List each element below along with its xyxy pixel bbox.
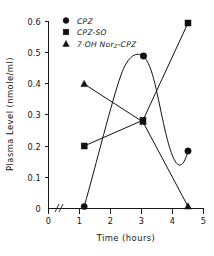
legend-label-tail: -CPZ <box>118 40 137 49</box>
series-7-oh-nor2-cpz-line <box>84 84 188 207</box>
legend-label-main: 7·OH Nor <box>77 40 114 49</box>
x-tick-label-3: 3 <box>139 216 144 226</box>
chart-container: 0.6 0.5 0.4 0.3 0.2 0.1 0 0 1 2 3 4 5 Ti… <box>0 0 214 256</box>
series-cpz-line <box>84 54 188 206</box>
legend-item-cpz[interactable]: CPZ <box>63 17 93 26</box>
legend-label-7-oh-nor2-cpz: 7·OH Nor2-CPZ <box>77 40 137 50</box>
y-tick-labels-group: 0.6 0.5 0.4 0.3 0.2 0.1 0 <box>27 17 41 214</box>
y-ticks-group <box>45 22 49 178</box>
axes-group <box>49 21 204 213</box>
plasma-level-line-chart: 0.6 0.5 0.4 0.3 0.2 0.1 0 0 1 2 3 4 5 Ti… <box>0 0 214 256</box>
x-tick-label-1: 1 <box>77 216 82 226</box>
legend-item-7-oh-nor2-cpz[interactable]: 7·OH Nor2-CPZ <box>63 40 137 50</box>
y-axis-title: Plasma Level (nmole/ml) <box>5 57 15 171</box>
legend-label-cpz-so: CPZ-SO <box>77 28 107 37</box>
triangle-marker <box>185 203 192 209</box>
triangle-marker <box>81 80 88 86</box>
x-tick-label-4: 4 <box>170 216 175 226</box>
series-cpz <box>81 53 191 210</box>
y-tick-label-5: 0.1 <box>27 173 41 183</box>
x-tick-label-2: 2 <box>108 216 113 226</box>
x-axis-title: Time (hours) <box>96 233 156 243</box>
circle-marker <box>63 18 69 24</box>
y-tick-label-6: 0 <box>36 204 41 214</box>
y-tick-label-1: 0.5 <box>27 48 41 58</box>
square-marker <box>185 20 191 26</box>
y-tick-label-0: 0.6 <box>27 17 41 27</box>
circle-marker <box>81 203 87 209</box>
x-tick-label-0: 0 <box>46 216 51 226</box>
circle-marker <box>140 53 147 60</box>
square-marker <box>63 29 69 35</box>
x-tick-label-5: 5 <box>201 216 206 226</box>
series-7-oh-nor2-cpz <box>81 80 192 209</box>
y-tick-label-3: 0.3 <box>27 110 41 120</box>
x-tick-labels-group: 0 1 2 3 4 5 <box>46 216 206 226</box>
y-tick-label-2: 0.4 <box>27 79 41 89</box>
circle-marker <box>185 148 191 154</box>
y-tick-label-4: 0.2 <box>27 142 41 152</box>
legend-label-cpz: CPZ <box>77 17 93 26</box>
triangle-marker <box>63 40 69 46</box>
square-marker <box>81 143 87 149</box>
legend: CPZ CPZ-SO 7·OH Nor2-CPZ <box>63 17 137 50</box>
x-ticks-group <box>49 209 204 214</box>
legend-item-cpz-so[interactable]: CPZ-SO <box>63 28 107 37</box>
